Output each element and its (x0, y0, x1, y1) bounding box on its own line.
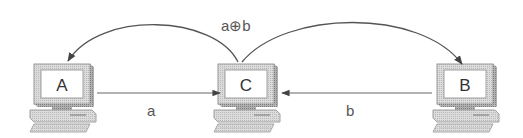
arc-c-to-a (68, 25, 238, 62)
node-c: C (217, 62, 287, 132)
broadcast-label: a⊕b (221, 18, 251, 33)
arc-c-to-b (242, 23, 462, 65)
node-c-label: C (217, 76, 275, 96)
node-a-label: A (33, 76, 91, 96)
node-b-label: B (436, 76, 494, 96)
node-b: B (436, 62, 506, 132)
node-a: A (33, 62, 103, 132)
edge-b-label: b (346, 103, 354, 118)
edge-a-label: a (147, 103, 155, 118)
